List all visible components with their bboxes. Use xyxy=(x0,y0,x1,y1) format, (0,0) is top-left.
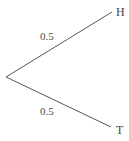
probability-tree-diagram: 0.5 0.5 H T xyxy=(0,0,129,141)
branch-line-tails xyxy=(6,77,111,127)
outcome-node-tails: T xyxy=(116,124,123,136)
branch-probability-tails: 0.5 xyxy=(40,106,54,117)
branch-probability-heads: 0.5 xyxy=(40,31,54,42)
branch-line-heads xyxy=(6,12,112,77)
tree-branches-svg xyxy=(0,0,129,141)
outcome-node-heads: H xyxy=(116,6,125,18)
